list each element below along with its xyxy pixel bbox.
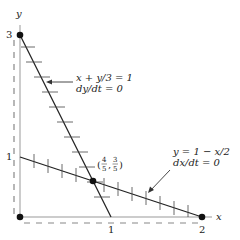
- svg-text:5: 5: [102, 165, 106, 173]
- annotation-arrow-2: [150, 170, 170, 191]
- equilibrium-point-0-3: [17, 32, 24, 39]
- x-tick-2: 2: [199, 224, 205, 235]
- x-tick-1: 1: [108, 224, 114, 235]
- nullcline-2-equation: y = 1 − x/2: [172, 146, 230, 157]
- svg-text:3: 3: [113, 156, 117, 164]
- nullcline-2-condition: dx/dt = 0: [173, 157, 221, 168]
- equilibrium-point-origin: [17, 214, 24, 221]
- svg-text:(: (: [97, 159, 101, 170]
- nullcline-1-equation: x + y/3 = 1: [76, 72, 133, 83]
- phase-plane-diagram: y x 3 1 1 2 x + y/3 = 1 dy/dt = 0 y = 1 …: [0, 0, 240, 240]
- y-tick-1: 1: [6, 151, 12, 162]
- horizontal-tick-marks: [21, 47, 110, 197]
- intersection-label: ( 4 5 , 3 5 ): [97, 156, 123, 173]
- y-tick-3: 3: [6, 29, 12, 40]
- y-axis-label: y: [15, 8, 22, 19]
- svg-text:): ): [119, 159, 123, 170]
- nullcline-1-condition: dy/dt = 0: [76, 83, 124, 94]
- x-axis-label: x: [216, 211, 222, 222]
- svg-text:5: 5: [113, 165, 117, 173]
- equilibrium-point-interior: [90, 178, 97, 185]
- svg-text:,: ,: [108, 159, 111, 170]
- arrow-head-icon: [46, 80, 52, 85]
- equilibrium-point-2-0: [199, 214, 206, 221]
- svg-text:4: 4: [102, 156, 107, 164]
